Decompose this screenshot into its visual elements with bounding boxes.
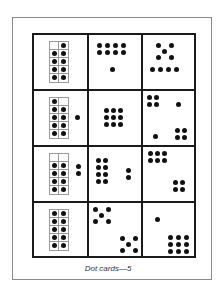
dot-card-r2-c2 (89, 91, 141, 145)
dot-card-r2-c1 (34, 91, 87, 145)
dot-card-r1-c2 (89, 35, 141, 89)
ten-frame (49, 41, 69, 83)
dot-card-r1-c1 (34, 35, 87, 89)
dot-card-r1-c3 (143, 35, 194, 89)
dot-card-grid (32, 33, 196, 258)
dot-card-r4-c2 (89, 203, 141, 258)
ten-frame (49, 153, 69, 195)
ten-frame (49, 97, 69, 139)
dot-card-r2-c3 (143, 91, 194, 145)
dot-card-r4-c1 (34, 203, 87, 258)
dot-card-r3-c3 (143, 147, 194, 201)
ten-frame (49, 209, 69, 251)
dot-card-r3-c2 (89, 147, 141, 201)
dot-card-r4-c3 (143, 203, 194, 258)
caption: Dot cards—5 (0, 264, 216, 273)
dot-card-r3-c1 (34, 147, 87, 201)
